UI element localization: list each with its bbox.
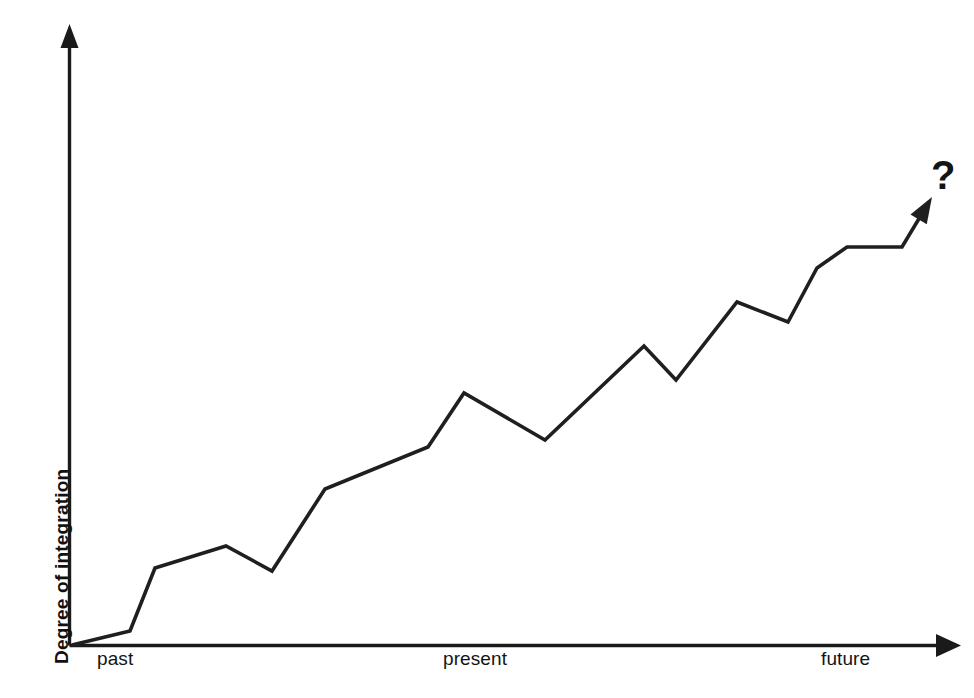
data-series-arrowhead xyxy=(910,197,932,224)
chart-canvas: Degree of integration past present futur… xyxy=(0,0,974,698)
y-axis-label: Degree of integration xyxy=(51,414,73,664)
uncertainty-question-mark-annotation: ? xyxy=(931,155,955,195)
x-tick-label-past: past xyxy=(97,648,133,670)
y-axis-arrowhead xyxy=(61,24,79,48)
data-series-group xyxy=(72,197,932,645)
x-tick-label-present: present xyxy=(443,648,507,670)
x-tick-label-future: future xyxy=(821,648,870,670)
integration-trend-line-chart xyxy=(0,0,974,698)
x-axis-arrowhead xyxy=(936,634,961,657)
y-axis-label-wrapper: Degree of integration xyxy=(22,200,50,480)
data-series-line xyxy=(72,209,925,645)
